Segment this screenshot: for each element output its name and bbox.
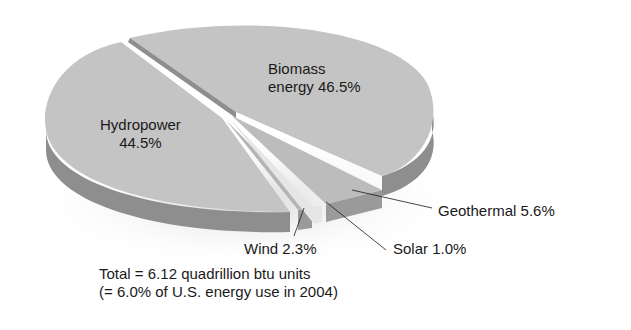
label-biomass-value: energy 46.5% (268, 78, 361, 96)
pie-chart (0, 0, 631, 330)
label-biomass: Biomass energy 46.5% (268, 60, 361, 96)
label-geothermal: Geothermal 5.6% (438, 202, 555, 220)
label-biomass-name: Biomass (268, 60, 361, 78)
label-hydropower: Hydropower 44.5% (100, 116, 181, 152)
total-annotation-line2: (= 6.0% of U.S. energy use in 2004) (99, 283, 338, 301)
label-hydropower-value: 44.5% (100, 134, 181, 152)
label-wind: Wind 2.3% (244, 240, 317, 258)
total-annotation-line1: Total = 6.12 quadrillion btu units (99, 265, 310, 283)
label-hydropower-name: Hydropower (100, 116, 181, 134)
label-solar: Solar 1.0% (393, 240, 466, 258)
